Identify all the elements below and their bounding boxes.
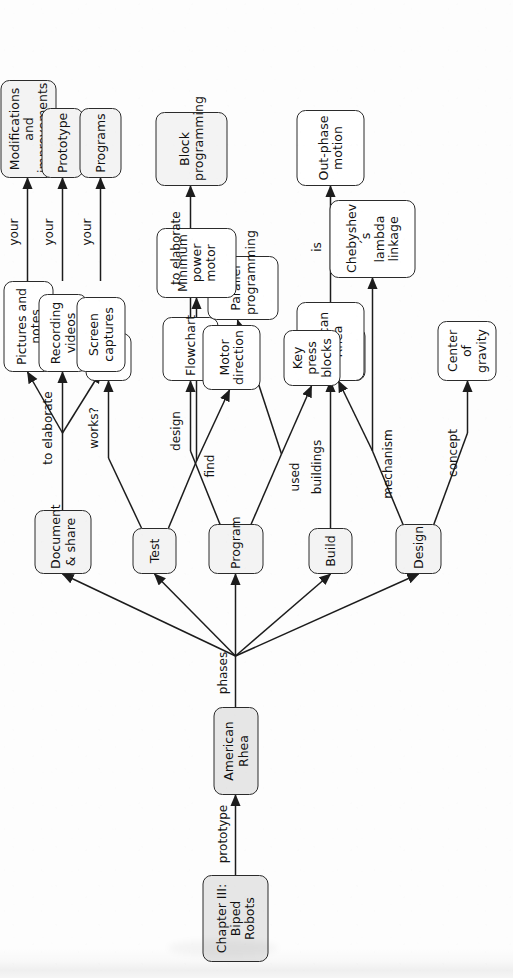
edge-label-mechanism: mechanism [381, 428, 394, 500]
node-phase-document-share[interactable]: Document & share [34, 510, 91, 574]
edge-hub-to-build [235, 574, 330, 656]
node-motor-direction-label: Motor direction [217, 330, 246, 385]
node-block-programming[interactable]: Block programming [155, 112, 227, 186]
node-phase-document-share-label: Document & share [48, 515, 77, 569]
node-american-rhea-main[interactable]: American Rhea [213, 707, 258, 795]
node-phase-test-label: Test [147, 533, 161, 569]
node-screen-captures-label: Screen captures [86, 302, 115, 367]
node-chebyshev-lambda-linkage-label: Chebyshev´s lambda linkage [344, 205, 401, 273]
edge-hub-to-document [62, 574, 235, 656]
edge-label-your-captures: your [80, 210, 93, 254]
edge-test-works-stub [108, 458, 141, 528]
edge-hub-to-test [154, 574, 235, 656]
node-key-press-blocks-label: Key press blocks [290, 335, 333, 381]
node-out-phase-motion-label: Out-phase motion [316, 115, 345, 181]
edge-label-prototype: prototype [216, 799, 229, 869]
node-prototype-label: Prototype [55, 113, 69, 173]
edge-label-concept: concept [446, 423, 459, 483]
edge-label-find: find [203, 448, 216, 484]
node-programs-label: Programs [93, 113, 107, 173]
edge-label-is: is [310, 234, 323, 260]
diagram-rotation-wrapper: Chapter III: Biped Robots American Rhea … [0, 0, 513, 978]
edge-program-used-stub [249, 454, 281, 528]
node-phase-build-label: Build [323, 533, 337, 569]
node-phase-program-label: Program [228, 529, 242, 569]
node-phase-program[interactable]: Program [208, 524, 263, 574]
node-phase-build[interactable]: Build [308, 528, 352, 574]
node-phase-design-label: Design [411, 529, 425, 569]
edge-design-to-bevel [338, 381, 372, 451]
node-chebyshev-lambda-linkage[interactable]: Chebyshev´s lambda linkage [329, 200, 415, 278]
edge-label-your-pictures: your [7, 210, 20, 254]
edge-label-your-videos: your [42, 210, 55, 254]
node-motor-direction[interactable]: Motor direction [202, 325, 260, 390]
node-block-programming-label: Block programming [177, 117, 206, 181]
node-chapter-label: Chapter III: Biped Robots [214, 880, 257, 957]
concept-map-canvas: Chapter III: Biped Robots American Rhea … [0, 0, 513, 978]
node-center-of-gravity-label: Center of gravity [445, 326, 488, 376]
node-prototype[interactable]: Prototype [41, 108, 83, 178]
edge-label-to-elaborate-program: to elaborate [169, 208, 182, 288]
node-american-rhea-main-label: American Rhea [221, 712, 250, 790]
edge-hub-to-design [235, 574, 418, 656]
node-phase-design[interactable]: Design [395, 524, 441, 574]
node-key-press-blocks[interactable]: Key press blocks [283, 330, 340, 386]
node-flowchart-label: Flowchart [183, 322, 197, 376]
node-center-of-gravity[interactable]: Center of gravity [437, 321, 496, 381]
edge-label-design: design [169, 405, 182, 457]
node-recording-videos-label: Recording videos [48, 299, 77, 367]
node-out-phase-motion[interactable]: Out-phase motion [296, 110, 364, 186]
node-chapter[interactable]: Chapter III: Biped Robots [202, 875, 268, 962]
edge-program-to-keypress [281, 386, 311, 454]
edge-label-buildings: buildings [310, 434, 323, 500]
edge-label-to-elaborate-document: to elaborate [41, 388, 54, 468]
node-screen-captures[interactable]: Screen captures [76, 297, 125, 372]
edge-label-phases: phases [216, 649, 229, 697]
node-programs[interactable]: Programs [79, 108, 121, 178]
edge-test-find-stub [168, 461, 196, 528]
edge-label-works: works? [87, 403, 100, 453]
edge-label-used: used [288, 456, 301, 498]
node-phase-test[interactable]: Test [132, 528, 176, 574]
